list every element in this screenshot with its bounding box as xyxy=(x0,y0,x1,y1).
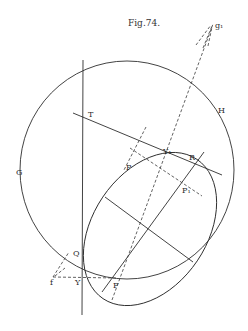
focal-line-F-R xyxy=(102,152,204,292)
dashed-line-to-g1 xyxy=(112,24,213,300)
label-P: P xyxy=(126,163,132,172)
tangent-line-TR xyxy=(73,113,222,175)
dashed-ray-2 xyxy=(203,26,212,48)
label-Q: Q xyxy=(73,249,80,258)
label-R: R xyxy=(189,153,196,162)
label-g1: g₁ xyxy=(215,21,223,30)
label-Y: Y xyxy=(74,278,81,287)
label-Y1: Y₁ xyxy=(162,147,172,156)
figure-74-diagram: Fig.74. g₁ H T G Y₁ R P P₁ Q f Y F xyxy=(0,0,248,331)
label-T: T xyxy=(88,110,94,119)
directrix-line xyxy=(82,60,83,315)
label-f: f xyxy=(50,278,54,287)
label-F: F xyxy=(113,281,119,290)
conic-ellipse xyxy=(56,127,244,330)
label-H: H xyxy=(218,106,225,115)
figure-title: Fig.74. xyxy=(128,18,160,28)
label-G: G xyxy=(16,168,22,177)
minor-axis-line xyxy=(105,197,193,262)
label-P1: P₁ xyxy=(182,186,191,195)
